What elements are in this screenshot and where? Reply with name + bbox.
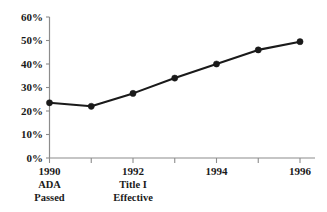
y-tick-label: 0% [27,152,44,164]
x-axis-annotation-line: ADA [38,179,61,190]
x-axis-annotation-line: Passed [34,192,64,203]
line-chart: 0%10%20%30%40%50%60% 1990199219941996 AD… [0,0,327,212]
y-tick-label: 30% [21,81,43,93]
x-tick-label: 1990 [39,165,62,177]
y-tick-label: 60% [21,11,43,23]
y-tick-label: 50% [21,34,43,46]
data-point-marker [130,90,136,96]
x-tick-label: 1992 [122,165,145,177]
data-point-marker [46,100,52,106]
y-tick-label: 10% [21,128,43,140]
data-point-marker [88,103,94,109]
x-tick-label: 1996 [289,165,312,177]
data-point-marker [255,47,261,53]
x-axis-annotation-line: Title I [119,179,147,190]
data-point-marker [297,39,303,45]
data-point-marker [172,75,178,81]
x-tick-label: 1994 [206,165,229,177]
x-axis-annotation-line: Effective [113,192,153,203]
chart-canvas: 0%10%20%30%40%50%60% 1990199219941996 AD… [0,0,327,212]
y-tick-label: 20% [21,105,43,117]
y-tick-label: 40% [21,58,43,70]
data-point-marker [213,61,219,67]
